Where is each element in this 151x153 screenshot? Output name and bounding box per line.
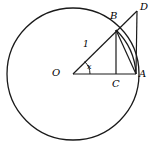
label-point-B: B [110,11,117,21]
label-radius-length: 1 [83,40,89,49]
label-angle-x: x [87,63,92,71]
label-point-D: D [140,2,148,12]
diagram-canvas [0,0,151,153]
label-point-O: O [52,68,60,78]
segment-BA [116,30,136,74]
geometry-figure: O A B C D 1 x [0,0,151,153]
segment-AD [136,11,137,74]
label-point-C: C [112,79,120,89]
label-point-A: A [139,69,146,79]
